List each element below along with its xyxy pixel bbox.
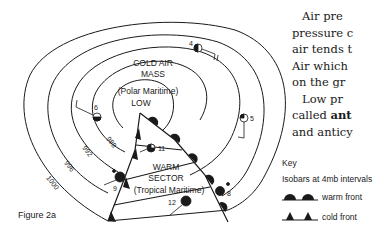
cold-front-icon (282, 210, 318, 222)
isobar-label-996: 996 (63, 159, 76, 173)
body-line-1: Air pre (292, 8, 343, 25)
body-line-4: Air which (292, 59, 348, 73)
cold-air-mass-line3: (Polar Maritime) (118, 86, 179, 96)
warm-sector-line2: SECTOR (148, 173, 183, 183)
station-11-label: 11 (158, 145, 165, 152)
body-line-8: and anticy (292, 125, 353, 139)
cold-front-label: cold front (322, 212, 357, 222)
cold-air-mass-line1: COLD AIR (133, 58, 173, 68)
isobar-label-992: 992 (81, 144, 94, 158)
station-6-label: 6 (94, 104, 98, 111)
warm-sector-line1: WARM (153, 162, 180, 172)
station-5 (238, 114, 248, 138)
warm-front-label: warm front (322, 192, 362, 202)
body-bold-term: ant (330, 108, 351, 122)
body-line-7: called (292, 108, 330, 122)
station-5-label: 5 (250, 115, 254, 122)
body-line-3: air tends t (292, 42, 352, 56)
station-4-label: 4 (189, 40, 193, 47)
cold-front-line (108, 113, 140, 221)
low-label: LOW (131, 98, 150, 108)
body-line-6: Low pr (292, 91, 343, 108)
warm-sector-line3: (Tropical Maritime) (134, 185, 205, 195)
cold-air-mass-line2: MASS (141, 69, 165, 79)
station-9 (104, 170, 125, 186)
station-4 (194, 44, 218, 61)
station-9-label: 9 (113, 185, 117, 192)
body-line-5: on the gr (292, 75, 345, 89)
key-isobar-note: Isobars at 4mb intervals (282, 174, 372, 184)
key-title: Key (282, 158, 297, 168)
station-12-label: 12 (168, 199, 176, 206)
figure-caption: Figure 2a (18, 210, 56, 220)
isobar-label-1000: 1000 (45, 174, 60, 191)
warm-front-icon (282, 190, 318, 202)
station-8-label: 8 (227, 190, 231, 197)
body-line-2: pressure c (292, 26, 353, 40)
body-text: Air pre pressure c air tends t Air which… (292, 8, 377, 140)
